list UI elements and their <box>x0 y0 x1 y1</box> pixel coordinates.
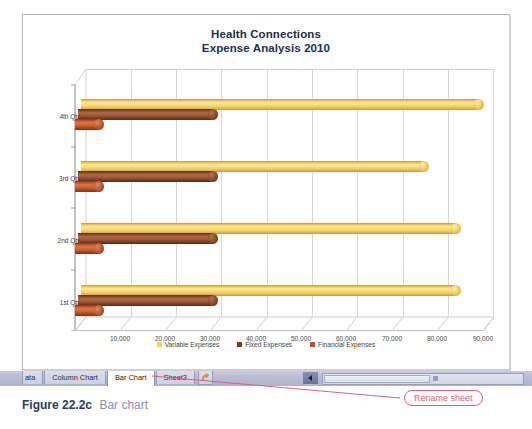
insert-worksheet-icon[interactable] <box>198 371 213 385</box>
legend-label-fixed: Fixed Expenses <box>245 341 292 348</box>
gridline <box>493 70 494 317</box>
sheet-tab-list[interactable]: ata Column Chart Bar Chart Sheet3 <box>22 371 213 386</box>
bar-cap <box>94 119 104 130</box>
bar-cap <box>208 295 218 306</box>
chart-object[interactable]: Health Connections Expense Analysis 2010 <box>22 14 510 370</box>
legend-label-financial: Financial Expenses <box>318 341 375 348</box>
chart-title-line-2: Expense Analysis 2010 <box>23 41 509 55</box>
figure-caption: Figure 22.2c Bar chart <box>22 398 148 412</box>
category-label-2nd-qtr: 2nd Qtr. <box>37 237 81 244</box>
bar-financial-2nd-qtr[interactable] <box>75 243 104 254</box>
scrollbar-marker <box>433 376 438 381</box>
bar-cap <box>451 223 461 234</box>
figure-description: Bar chart <box>99 398 148 412</box>
callout-rename-sheet: Rename sheet <box>404 390 483 406</box>
category-label-3rd-qtr: 3rd Qtr. <box>37 175 81 182</box>
bar-cap <box>208 109 218 120</box>
legend-item-financial-expenses[interactable]: Financial Expenses <box>310 341 375 348</box>
category-label-4th-qtr: 4th Qtr. <box>37 113 81 120</box>
bar-cap <box>94 243 104 254</box>
scrollbar-thumb[interactable] <box>324 375 430 383</box>
bar-financial-3rd-qtr[interactable] <box>75 181 104 192</box>
figure-number: Figure 22.2c <box>22 398 92 412</box>
chart-title: Health Connections Expense Analysis 2010 <box>23 27 509 55</box>
legend-swatch-fixed <box>237 342 242 347</box>
sheet-tab-sheet3[interactable]: Sheet3 <box>156 371 195 384</box>
plot-area[interactable]: 4th Qtr. 3rd Qtr. 2nd Qtr. 1st Qtr. 10,0… <box>23 63 511 331</box>
chart-legend[interactable]: Variable Expenses Fixed Expenses Financi… <box>23 341 509 348</box>
sheet-tab-data[interactable]: ata <box>22 371 43 384</box>
legend-item-variable-expenses[interactable]: Variable Expenses <box>157 341 220 348</box>
bar-cap <box>419 161 429 172</box>
legend-swatch-financial <box>310 342 315 347</box>
sheet-tab-bar-chart[interactable]: Bar Chart <box>107 371 155 386</box>
legend-label-variable: Variable Expenses <box>165 341 220 348</box>
bar-financial-4th-qtr[interactable] <box>75 119 104 130</box>
chart-title-line-1: Health Connections <box>23 27 509 41</box>
bar-cap <box>451 285 461 296</box>
bar-cap <box>208 233 218 244</box>
bar-cap <box>474 99 484 110</box>
bar-cap <box>94 305 104 316</box>
category-label-1st-qtr: 1st Qtr. <box>37 299 81 306</box>
horizontal-scrollbar[interactable] <box>322 373 524 385</box>
bar-financial-1st-qtr[interactable] <box>75 305 104 316</box>
tab-scroll-left-button[interactable] <box>303 372 318 384</box>
legend-swatch-variable <box>157 342 162 347</box>
bar-cap <box>94 181 104 192</box>
legend-item-fixed-expenses[interactable]: Fixed Expenses <box>237 341 292 348</box>
sheet-tab-bar[interactable]: ata Column Chart Bar Chart Sheet3 <box>0 371 532 386</box>
left-arrow-icon <box>308 375 312 381</box>
sheet-tab-column-chart[interactable]: Column Chart <box>44 371 106 384</box>
bar-cap <box>208 171 218 182</box>
